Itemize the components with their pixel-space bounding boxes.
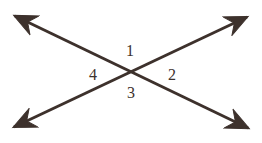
angle-label-3: 3 [127, 85, 135, 101]
angle-diagram-figure: 1 2 3 4 [0, 0, 262, 143]
angle-label-1: 1 [126, 43, 134, 59]
angle-label-2: 2 [168, 67, 176, 83]
angle-label-4: 4 [89, 67, 97, 83]
intersecting-lines-svg [0, 0, 262, 143]
